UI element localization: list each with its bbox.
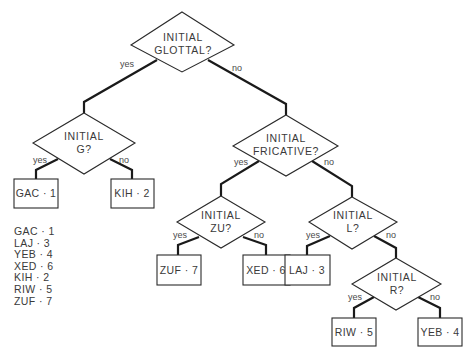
edge-label-no: no <box>119 155 129 165</box>
node-question-line1: INITIAL <box>64 130 104 142</box>
edge-label-yes: yes <box>33 155 48 165</box>
leaf-zuf: ZUF · 7 <box>157 255 201 285</box>
edge-label-no: no <box>430 292 440 302</box>
node-question-line2: R? <box>390 284 405 296</box>
leaf-label: RIW · 5 <box>335 326 373 338</box>
edge-label-no: no <box>386 230 396 240</box>
node-question-line2: GLOTTAL? <box>154 44 212 56</box>
leaf-label: GAC · 1 <box>16 187 57 199</box>
edge-label-yes: yes <box>306 230 321 240</box>
node-question-line1: INITIAL <box>163 31 203 43</box>
node-question-line1: INITIAL <box>201 209 241 221</box>
edge-label-no: no <box>324 157 334 167</box>
edge-label-yes: yes <box>120 59 135 69</box>
legend-list: GAC · 1 LAJ · 3 YEB · 4 XED · 6 KIH · 2 … <box>14 226 55 307</box>
legend-item: ZUF · 7 <box>14 296 55 308</box>
node-question-line2: ZU? <box>210 222 232 234</box>
node-question-line1: INITIAL <box>333 209 373 221</box>
edge-label-yes: yes <box>348 292 363 302</box>
edge-label-yes: yes <box>234 157 249 167</box>
leaf-label: XED · 6 <box>246 264 286 276</box>
node-question-line1: INITIAL <box>266 132 306 144</box>
decision-node-glottal: INITIAL GLOTTAL? <box>131 12 234 72</box>
leaf-yeb: YEB · 4 <box>418 318 462 346</box>
leaf-kih: KIH · 2 <box>111 179 154 208</box>
leaf-label: ZUF · 7 <box>160 264 198 276</box>
edge-label-yes: yes <box>173 230 188 240</box>
edge-glottal-no-fricative <box>208 60 286 115</box>
leaf-label: KIH · 2 <box>114 187 149 199</box>
legend-item: RIW · 5 <box>14 284 55 296</box>
legend-item: GAC · 1 <box>14 226 55 238</box>
node-question-line1: INITIAL <box>377 271 417 283</box>
decision-tree: yes no yes no yes no yes no yes no yes n… <box>0 0 475 357</box>
node-question-line2: G? <box>76 143 91 155</box>
leaf-xed: XED · 6 <box>243 255 290 285</box>
leaf-label: YEB · 4 <box>421 326 460 338</box>
leaf-laj: LAJ · 3 <box>285 255 330 285</box>
leaf-gac: GAC · 1 <box>14 179 58 208</box>
edge-label-no: no <box>232 63 242 73</box>
node-question-line2: FRICATIVE? <box>253 145 319 157</box>
leaf-riw: RIW · 5 <box>332 318 376 346</box>
edge-label-no: no <box>254 230 264 240</box>
leaf-label: LAJ · 3 <box>289 264 325 276</box>
node-question-line2: L? <box>347 222 360 234</box>
